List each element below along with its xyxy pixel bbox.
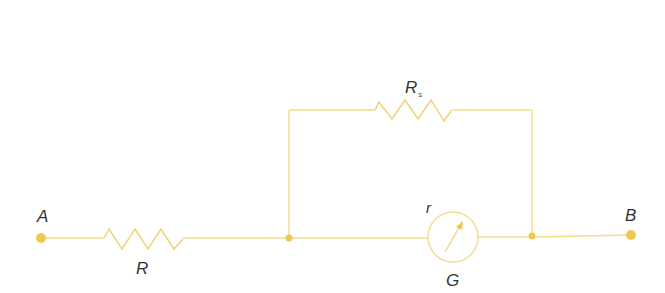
junction-right-node <box>529 233 536 240</box>
resistor-rs-subscript: s <box>418 90 422 99</box>
resistor-rs <box>375 100 451 121</box>
resistor-r-label: R <box>136 260 148 277</box>
galvanometer <box>428 212 478 262</box>
wire-junction-to-b <box>532 235 631 237</box>
galvanometer-label: G <box>446 272 459 289</box>
terminal-b-label: B <box>625 207 636 224</box>
resistor-r <box>104 229 183 249</box>
resistor-rs-label-main: R <box>405 78 417 97</box>
galvanometer-needle <box>445 226 460 252</box>
terminal-a-label: A <box>37 208 48 225</box>
circuit-diagram <box>0 0 665 293</box>
resistor-rs-label: Rs <box>405 79 422 99</box>
galvanometer-resistance-label: r <box>426 200 431 215</box>
junction-left-node <box>286 235 293 242</box>
terminal-a-node <box>36 233 46 243</box>
terminal-b-node <box>626 230 636 240</box>
galvanometer-arrowhead-icon <box>456 221 463 230</box>
